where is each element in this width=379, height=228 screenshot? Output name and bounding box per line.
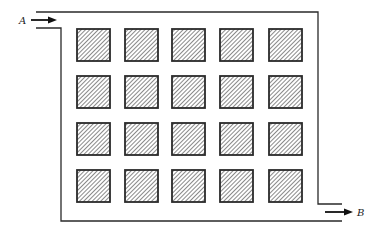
hatched-obstacle-square [125,29,158,61]
obstacle-grid [77,29,302,202]
hatched-obstacle-square [220,76,253,108]
arrowhead-icon [48,17,57,24]
hatched-obstacle-square [269,76,302,108]
hatched-obstacle-square [77,76,110,108]
hatched-obstacle-square [172,170,205,202]
hatched-obstacle-square [269,170,302,202]
arrowhead-icon [344,209,353,216]
hatched-obstacle-square [269,29,302,61]
inlet-arrow [31,17,57,24]
hatched-obstacle-square [269,123,302,155]
flow-diagram: A B [0,0,379,228]
hatched-obstacle-square [172,76,205,108]
hatched-obstacle-square [220,29,253,61]
hatched-obstacle-square [77,123,110,155]
hatched-obstacle-square [172,123,205,155]
hatched-obstacle-square [125,170,158,202]
hatched-obstacle-square [77,29,110,61]
outlet-arrow [325,209,353,216]
outlet-label: B [356,207,364,218]
hatched-obstacle-square [220,123,253,155]
hatched-obstacle-square [220,170,253,202]
hatched-obstacle-square [125,76,158,108]
inlet-label: A [18,15,26,26]
hatched-obstacle-square [172,29,205,61]
hatched-obstacle-square [77,170,110,202]
hatched-obstacle-square [125,123,158,155]
